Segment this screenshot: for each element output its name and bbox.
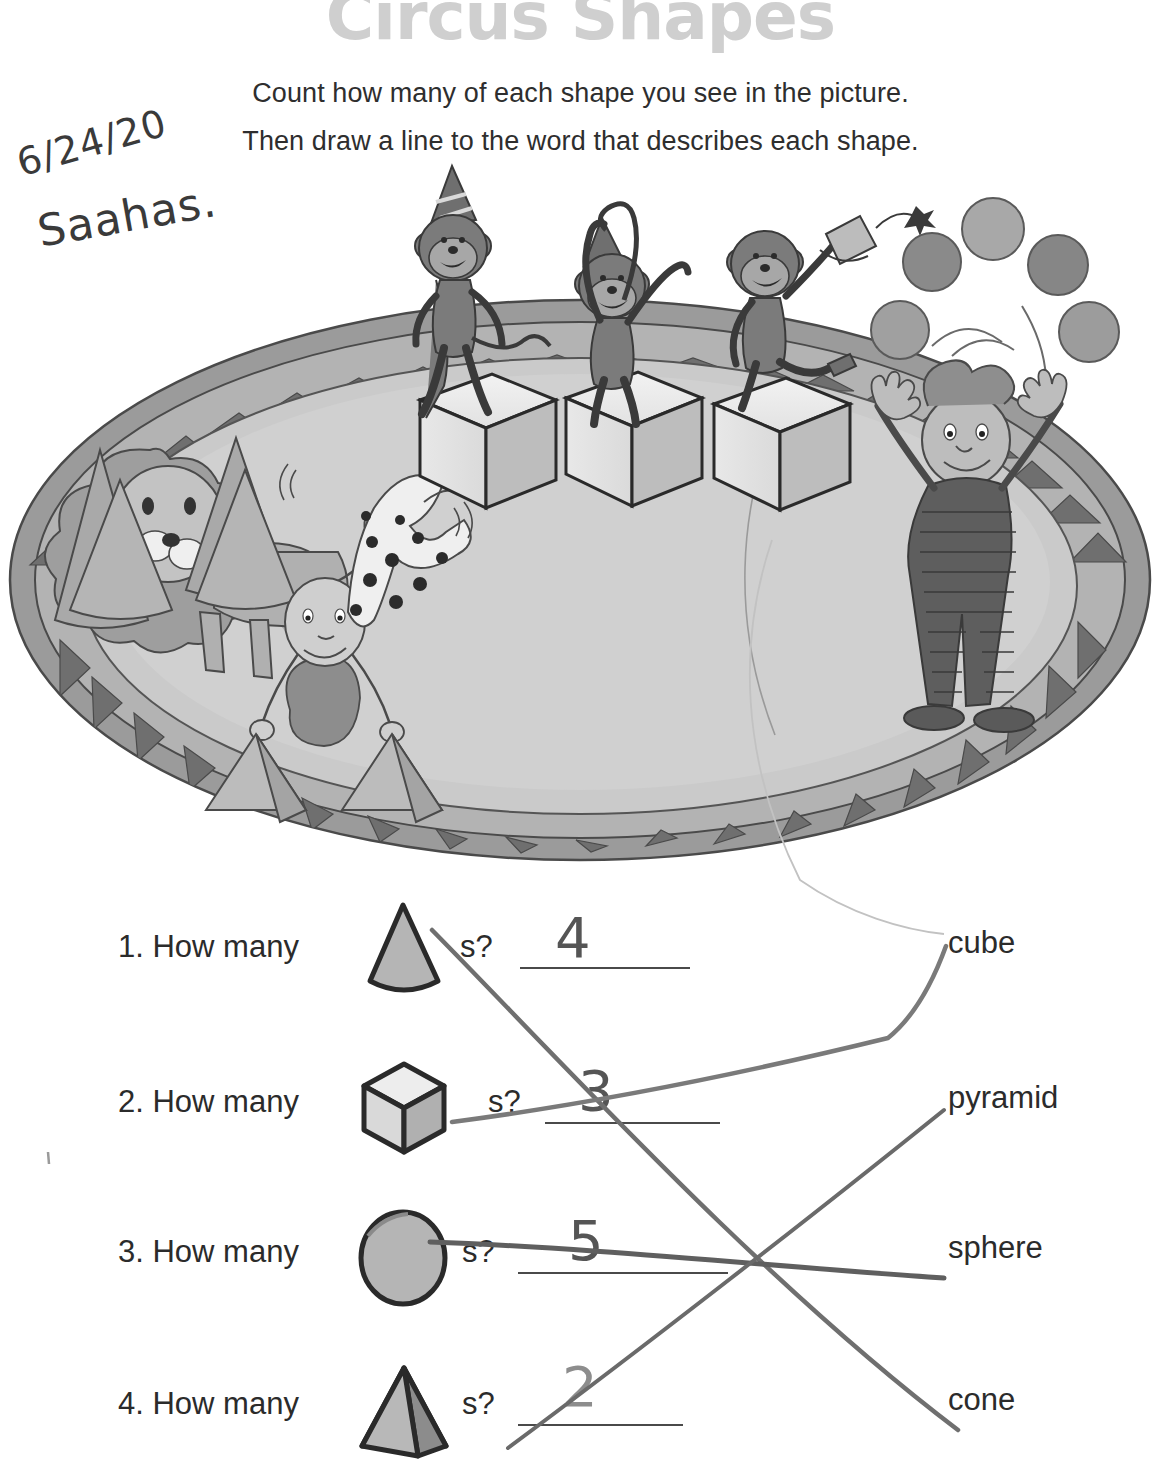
answer-2-value: 3 [578, 1058, 614, 1123]
answer-line-2[interactable] [545, 1122, 720, 1124]
word-cube[interactable]: cube [948, 925, 1015, 961]
pyramid-shape-icon [348, 1354, 458, 1464]
question-2-label: 2. How many [118, 1084, 299, 1120]
sphere-shape-icon [348, 1202, 458, 1312]
question-3-suffix: s? [462, 1234, 495, 1270]
answer-line-1[interactable] [520, 967, 690, 969]
question-4-label: 4. How many [118, 1386, 299, 1422]
cube-shape-icon [348, 1052, 458, 1162]
question-2-suffix: s? [488, 1084, 521, 1120]
question-1-suffix: s? [460, 929, 493, 965]
answer-line-3[interactable] [518, 1272, 728, 1274]
page-title: Circus Shapes [0, 0, 1161, 55]
cone-shape-icon [348, 897, 458, 1007]
word-sphere[interactable]: sphere [948, 1230, 1043, 1266]
question-4-suffix: s? [462, 1386, 495, 1422]
question-row-3: 3. How many s? 5 sphere [0, 1200, 1161, 1320]
question-row-1: 1. How many s? 4 cube [0, 895, 1161, 1015]
question-row-4: 4. How many s? 2 cone [0, 1352, 1161, 1469]
question-row-2: 2. How many s? 3 pyramid [0, 1050, 1161, 1170]
worksheet-page: Circus Shapes Count how many of each sha… [0, 0, 1161, 1469]
answer-line-4[interactable] [518, 1424, 683, 1426]
word-cone[interactable]: cone [948, 1382, 1015, 1418]
answer-4-value: 2 [562, 1354, 598, 1419]
question-3-label: 3. How many [118, 1234, 299, 1270]
word-pyramid[interactable]: pyramid [948, 1080, 1058, 1116]
question-1-label: 1. How many [118, 929, 299, 965]
instruction-line-1: Count how many of each shape you see in … [0, 78, 1161, 109]
answer-3-value: 5 [568, 1208, 604, 1273]
cube-props [420, 372, 850, 510]
circus-illustration [0, 150, 1161, 890]
answer-1-value: 4 [555, 905, 591, 970]
